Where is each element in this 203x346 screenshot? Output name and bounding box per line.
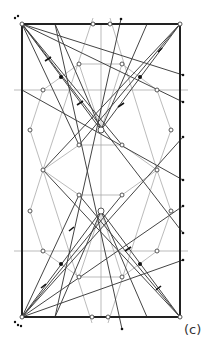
diagram-canvas <box>0 0 203 346</box>
main-lines <box>22 19 183 329</box>
figure-label: (c) <box>184 322 201 337</box>
solid-points <box>14 15 185 331</box>
tick-marks <box>41 48 162 290</box>
